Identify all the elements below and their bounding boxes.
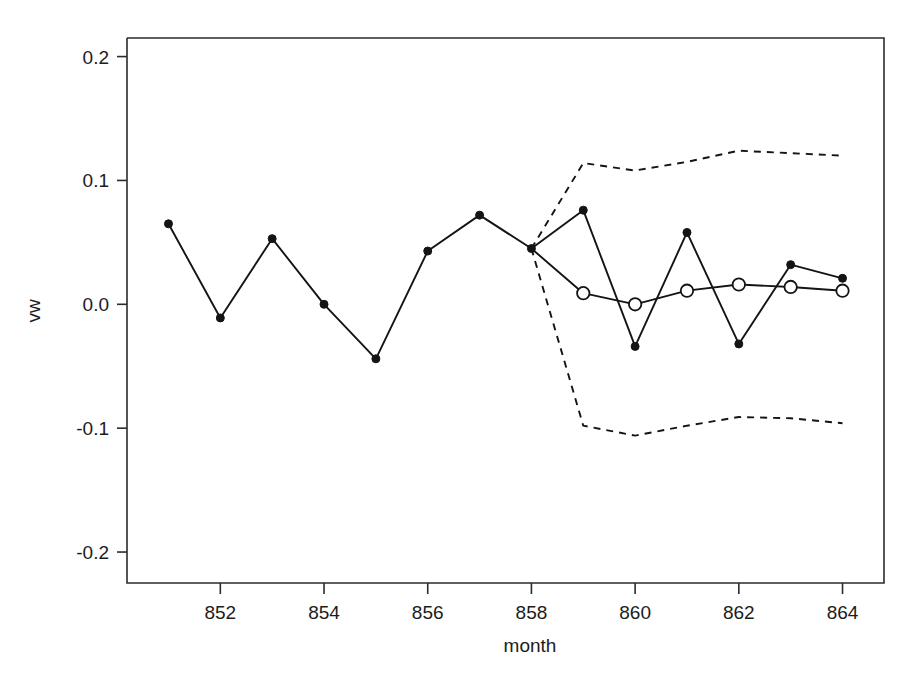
- y-tick-label: -0.1: [76, 418, 109, 439]
- x-tick-label: 852: [204, 602, 236, 623]
- data-point-observed: [164, 220, 172, 228]
- data-point-observed: [683, 228, 691, 236]
- data-point-observed: [320, 300, 328, 308]
- data-point-observed: [735, 340, 743, 348]
- x-tick-label: 864: [827, 602, 859, 623]
- y-tick-label: -0.2: [76, 542, 109, 563]
- data-point-observed: [787, 261, 795, 269]
- data-point-forecast: [836, 284, 848, 296]
- chart-figure: 0.20.10.0-0.1-0.2 852854856858860862864 …: [0, 0, 920, 680]
- x-axis-title: month: [504, 635, 557, 656]
- data-point-forecast: [629, 298, 641, 310]
- data-point-observed: [476, 211, 484, 219]
- data-point-forecast: [784, 281, 796, 293]
- data-point-observed: [631, 342, 639, 350]
- y-tick-label: 0.2: [83, 47, 109, 68]
- data-point-observed: [527, 245, 535, 253]
- x-tick-label: 858: [516, 602, 548, 623]
- y-axis-title: vw: [23, 299, 44, 323]
- x-tick-label: 860: [619, 602, 651, 623]
- y-tick-label: 0.0: [83, 294, 109, 315]
- x-tick-label: 854: [308, 602, 340, 623]
- data-point-observed: [839, 274, 847, 282]
- x-tick-label: 856: [412, 602, 444, 623]
- data-point-observed: [372, 355, 380, 363]
- line-chart: 0.20.10.0-0.1-0.2 852854856858860862864 …: [0, 0, 920, 680]
- data-point-observed: [216, 314, 224, 322]
- data-point-observed: [579, 206, 587, 214]
- y-tick-label: 0.1: [83, 170, 109, 191]
- data-point-forecast: [681, 284, 693, 296]
- data-point-observed: [268, 235, 276, 243]
- data-point-forecast: [577, 287, 589, 299]
- chart-background: [0, 0, 920, 680]
- data-point-observed: [424, 247, 432, 255]
- data-point-forecast: [733, 278, 745, 290]
- x-tick-label: 862: [723, 602, 755, 623]
